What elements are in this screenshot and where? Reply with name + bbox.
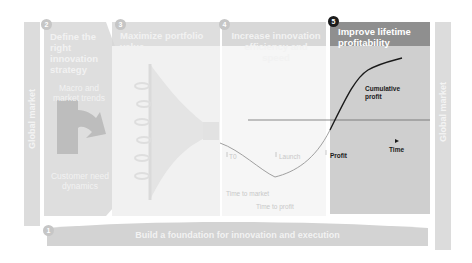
step-2-macro-trends: Macro and market trends	[50, 83, 108, 103]
chart-launch-label: Launch	[279, 153, 300, 160]
step-3-title: Maximize portfolio value	[120, 30, 210, 52]
step-2-title: Define the right innovation strategy	[50, 31, 102, 75]
chart-cumulative-profit-label: Cumulative profit	[365, 85, 403, 101]
chart-time-label: Time	[389, 146, 404, 153]
innovation-framework-diagram: Global market Global market	[0, 0, 472, 263]
chart-t0-label: T0	[229, 153, 237, 160]
step-3-badge: 3	[115, 19, 126, 30]
chart-time-to-profit-label: Time to profit	[256, 203, 294, 210]
foundation-label: Build a foundation for innovation and ex…	[47, 230, 428, 240]
step-5-title: Improve lifetime profitability	[338, 26, 428, 48]
step-2-customer-dynamics: Customer need dynamics	[48, 171, 112, 191]
chart-profit-label: Profit	[330, 152, 347, 159]
step-2-badge: 2	[41, 19, 52, 30]
step-4-badge: 4	[219, 19, 230, 30]
chart-time-to-market-label: Time to market	[226, 190, 269, 197]
step-4-title: Increase innovation efficiency and speed	[230, 30, 322, 63]
